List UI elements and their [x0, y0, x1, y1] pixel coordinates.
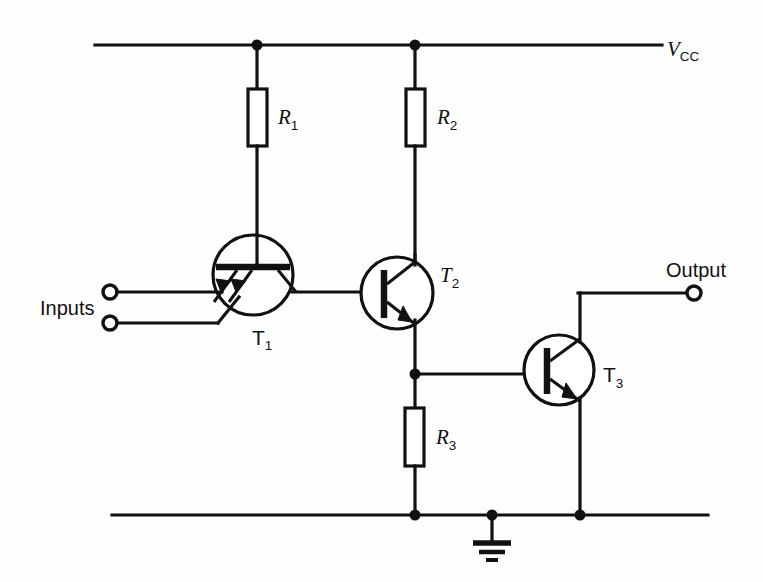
transistor-t2: T2 [361, 255, 459, 374]
resistor-r3-label: R3 [435, 425, 456, 453]
r3-branch [405, 374, 424, 515]
resistor-r3-body [405, 408, 424, 466]
vcc-label-group: VCC [667, 37, 700, 64]
junction-node-gnd-t3 [575, 510, 586, 521]
t2-emitter-node-group [410, 369, 525, 380]
transistor-t3-envelope [524, 335, 594, 405]
r1-branch [248, 45, 267, 235]
transistor-t1: T1 [213, 235, 296, 353]
vcc-rail-group [95, 40, 662, 51]
r2-branch [406, 45, 425, 262]
resistor-r2-label: R2 [436, 105, 457, 133]
resistor-r2-body [406, 89, 425, 146]
output-terminal[interactable] [687, 286, 701, 300]
output-label: Output [666, 259, 726, 281]
output-group: Output [578, 259, 726, 300]
transistor-t3-label: T3 [603, 363, 623, 391]
transistor-t3: T3 [524, 293, 623, 515]
schematic-canvas: T1 Inputs [0, 0, 763, 582]
transistor-t2-label: T2 [440, 263, 459, 291]
ground-symbol [473, 515, 511, 560]
resistor-r1-label: R1 [277, 105, 298, 133]
input-terminal-lower[interactable] [103, 316, 117, 330]
circuit-diagram: T1 Inputs [0, 0, 763, 582]
resistor-r1-body [248, 89, 267, 146]
input-group: Inputs [40, 285, 239, 330]
inputs-label: Inputs [40, 297, 94, 319]
input-terminal-upper[interactable] [103, 285, 117, 299]
transistor-t1-label: T1 [252, 326, 272, 353]
ground-rail-group [112, 510, 708, 521]
junction-node-gnd-r3 [410, 510, 421, 521]
transistor-t2-envelope [361, 257, 433, 329]
vcc-label: VCC [667, 37, 700, 64]
